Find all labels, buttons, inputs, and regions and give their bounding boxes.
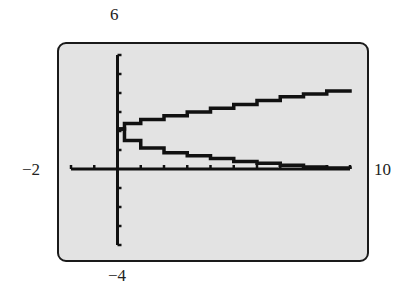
graph-plot bbox=[0, 0, 409, 294]
ymax-label: 6 bbox=[110, 6, 119, 23]
curve bbox=[118, 89, 351, 169]
xmin-label: −2 bbox=[22, 161, 40, 178]
ymin-label: −4 bbox=[108, 267, 126, 284]
xmax-label: 10 bbox=[374, 161, 391, 178]
y-axis bbox=[118, 55, 122, 245]
